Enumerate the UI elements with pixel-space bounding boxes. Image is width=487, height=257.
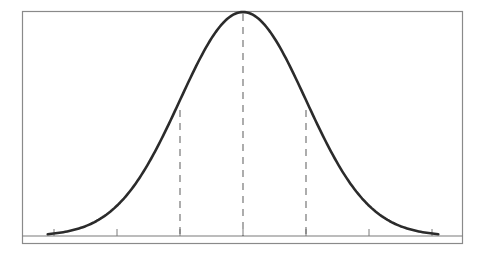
normal-distribution-chart	[0, 0, 487, 257]
